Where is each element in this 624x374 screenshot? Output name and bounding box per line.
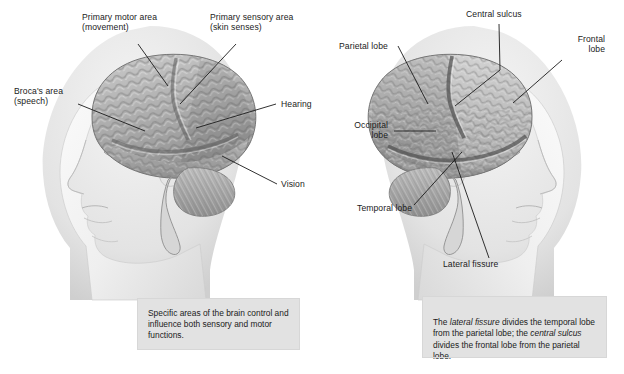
figure-canvas: Primary motor area (movement) Primary se… (0, 0, 624, 374)
label-primary-motor-area: Primary motor area (movement) (82, 12, 157, 33)
label-parietal-lobe: Parietal lobe (339, 41, 388, 51)
label-brocas-area: Broca's area (speech) (14, 86, 63, 107)
label-hearing: Hearing (281, 99, 312, 109)
label-lateral-fissure: Lateral fissure (443, 259, 498, 269)
label-occipital-lobe: Occipital lobe (330, 120, 388, 141)
caption-right-em-central-sulcus: central sulcus (530, 328, 581, 338)
label-central-sulcus: Central sulcus (466, 9, 522, 19)
left-head-illustration (43, 26, 265, 300)
label-frontal-lobe: Frontal lobe (546, 34, 605, 55)
caption-right-em-lateral-fissure: lateral fissure (450, 317, 500, 327)
label-primary-sensory-area: Primary sensory area (skin senses) (210, 12, 293, 33)
caption-right-part1: The (433, 317, 450, 327)
caption-left: Specific areas of the brain control and … (137, 298, 300, 350)
caption-right: The lateral fissure divides the temporal… (422, 296, 607, 358)
caption-right-part3: divides the frontal lobe from the pariet… (433, 340, 580, 361)
label-vision: Vision (281, 179, 305, 189)
label-temporal-lobe: Temporal lobe (357, 203, 412, 213)
